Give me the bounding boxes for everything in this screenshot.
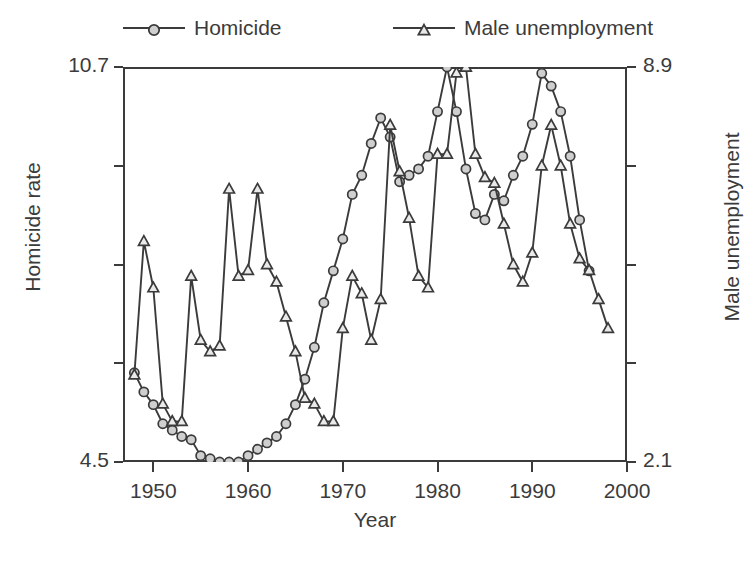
data-point-circle [509,171,518,180]
y-axis-left-tick-label: 10.7 [68,53,109,77]
x-axis-tick [437,462,439,472]
data-point-circle [376,113,385,122]
data-point-triangle [157,398,168,408]
x-axis-tick [531,462,533,472]
data-point-circle [423,152,432,161]
data-point-circle [405,171,414,180]
data-point-triangle [309,398,320,408]
x-axis-tick-label: 1970 [303,479,383,503]
y-axis-right-tick [627,165,636,167]
data-point-triangle [489,178,500,188]
circle-marker-icon [123,18,185,38]
data-point-triangle [508,259,519,269]
data-point-circle [234,457,243,462]
data-point-circle [253,445,262,454]
data-point-triangle [451,67,462,77]
x-axis-tick-label: 1990 [492,479,572,503]
data-point-circle [367,139,376,148]
data-point-circle [461,164,470,173]
data-point-circle [139,387,148,396]
data-point-triangle [347,271,358,281]
data-point-circle [433,107,442,116]
data-point-circle [243,451,252,460]
chart-figure: Homicide Male unemployment Homicide rate… [0,0,754,567]
data-point-triangle [555,160,566,170]
data-point-triangle [337,323,348,333]
y-axis-right-tick-label: 8.9 [643,53,672,77]
data-point-triangle [224,183,235,193]
y-axis-right-tick [627,66,636,68]
data-point-triangle [375,294,386,304]
data-point-circle [518,152,527,161]
y-axis-left-tick [114,362,123,364]
data-point-triangle [195,334,206,344]
data-point-triangle [148,282,159,292]
data-point-triangle [536,160,547,170]
data-point-triangle [470,149,481,159]
data-point-triangle [546,119,557,129]
data-point-triangle [290,346,301,356]
data-point-triangle [356,288,367,298]
data-point-triangle [385,119,396,129]
y-axis-right-tick-label: 2.1 [643,448,672,472]
y-axis-left-title: Homicide rate [21,112,45,342]
data-point-circle [537,69,546,78]
series-homicide [130,67,594,462]
series-canvas [123,67,627,462]
data-point-circle [547,82,556,91]
data-point-circle [442,67,451,72]
y-axis-right-tick [627,362,636,364]
series-line [134,67,608,421]
data-point-triangle [243,265,254,275]
x-axis-tick [626,462,628,472]
data-point-circle [480,215,489,224]
data-point-circle [528,120,537,129]
data-point-triangle [271,276,282,286]
x-axis-tick [152,462,154,472]
data-point-triangle [214,340,225,350]
data-point-circle [206,454,215,462]
legend-entry-homicide: Homicide [123,8,393,48]
data-point-circle [168,426,177,435]
data-point-triangle [499,218,510,228]
data-point-circle [338,234,347,243]
data-point-triangle [366,334,377,344]
x-axis-tick-label: 1980 [398,479,478,503]
data-point-triangle [262,259,273,269]
y-axis-left-tick [114,165,123,167]
data-point-circle [177,432,186,441]
series-male-unemployment [129,67,613,425]
data-point-circle [225,457,234,462]
series-line [134,67,589,462]
data-point-circle [471,209,480,218]
data-point-circle [575,215,584,224]
data-point-triangle [593,294,604,304]
x-axis-tick [342,462,344,472]
data-point-circle [158,419,167,428]
y-axis-left-tick [114,461,123,463]
x-axis-tick [247,462,249,472]
data-point-triangle [186,271,197,281]
legend-label-male-unemployment: Male unemployment [464,16,653,40]
chart-legend: Homicide Male unemployment [123,8,653,48]
y-axis-left-tick [114,66,123,68]
data-point-circle [319,298,328,307]
data-point-circle [187,435,196,444]
data-point-circle [281,419,290,428]
data-point-triangle [527,247,538,257]
x-axis-tick-label: 1960 [208,479,288,503]
data-point-circle [556,107,565,116]
y-axis-left-tick-label: 4.5 [80,448,109,472]
data-point-triangle [461,67,472,71]
data-point-triangle [480,172,491,182]
data-point-circle [329,266,338,275]
data-point-circle [310,343,319,352]
legend-label-homicide: Homicide [194,16,282,40]
data-point-triangle [404,212,415,222]
y-axis-right-title: Male unemployment [720,77,744,377]
data-point-circle [499,196,508,205]
data-point-triangle [565,218,576,228]
data-point-circle [357,171,366,180]
x-axis-tick-label: 1950 [113,479,193,503]
x-axis-title: Year [123,508,627,532]
